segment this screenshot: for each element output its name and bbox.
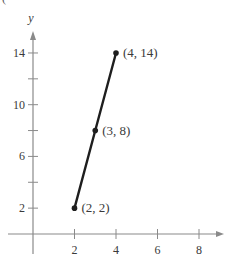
y-tick-label: 6	[19, 149, 25, 163]
y-axis-label: y	[27, 11, 34, 25]
panel-label: (	[2, 0, 6, 5]
x-axis-arrow-icon	[216, 231, 224, 237]
y-axis-arrow-icon	[30, 31, 36, 40]
data-point	[92, 128, 98, 134]
point-label: (4, 14)	[123, 45, 158, 60]
x-tick-label: 2	[72, 243, 78, 257]
y-tick-label: 14	[13, 46, 25, 60]
x-tick-label: 4	[113, 243, 119, 257]
line-chart: y 2468261014 (2, 2)(3, 8)(4, 14) (	[0, 0, 227, 271]
x-tick-label: 8	[196, 243, 202, 257]
x-tick-label: 6	[155, 243, 161, 257]
data-point	[72, 205, 78, 211]
point-label: (2, 2)	[82, 200, 110, 215]
y-tick-label: 2	[19, 201, 25, 215]
data-point	[113, 50, 119, 56]
y-tick-label: 10	[13, 98, 25, 112]
ticks: 2468261014	[13, 46, 202, 257]
point-label: (3, 8)	[102, 123, 130, 138]
